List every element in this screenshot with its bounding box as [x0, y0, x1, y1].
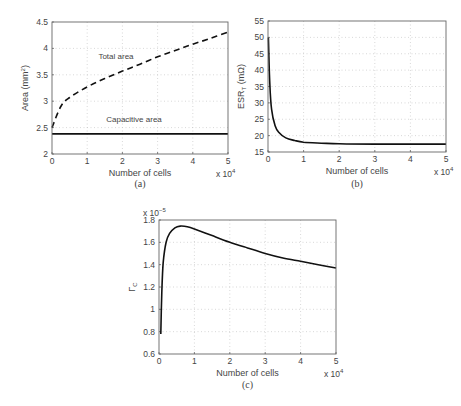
subfigure-caption: (c)	[242, 379, 253, 391]
x-axis-label: Number of cells	[326, 166, 389, 176]
y-tick-label: 15	[255, 147, 265, 157]
annotation-label: Total area	[98, 52, 134, 61]
y-tick-label: 1.4	[143, 260, 155, 270]
series-line	[268, 37, 446, 144]
x-tick-label: 3	[155, 156, 160, 166]
x-tick-label: 5	[334, 356, 339, 366]
y-scale-note: x 10−5	[143, 207, 167, 218]
y-tick-label: 40	[255, 65, 265, 75]
y-tick-label: 35	[255, 82, 265, 92]
chart-a: 01234522.533.544.5Number of cellsx 104Ar…	[20, 17, 236, 190]
subfigure-caption: (a)	[134, 178, 145, 190]
x-tick-label: 0	[157, 356, 162, 366]
y-tick-label: 1	[150, 304, 155, 314]
y-tick-label: 3	[43, 96, 48, 106]
x-tick-label: 0	[266, 154, 271, 164]
y-tick-label: 55	[255, 16, 265, 26]
y-tick-label: 30	[255, 98, 265, 108]
x-tick-label: 3	[263, 356, 268, 366]
series-line	[52, 32, 228, 128]
x-tick-label: 5	[444, 154, 449, 164]
y-tick-label: 1.2	[143, 282, 155, 292]
y-tick-label: 2	[43, 149, 48, 159]
y-tick-label: 4.5	[36, 17, 48, 27]
y-tick-label: 50	[255, 32, 265, 42]
y-tick-label: 3.5	[36, 70, 48, 80]
x-scale-note: x 104	[434, 166, 454, 177]
x-tick-label: 2	[227, 356, 232, 366]
x-tick-label: 1	[192, 356, 197, 366]
annotation-label: Capacitive area	[106, 115, 162, 124]
x-axis-label: Number of cells	[216, 368, 279, 378]
x-tick-label: 2	[120, 156, 125, 166]
x-tick-label: 1	[85, 156, 90, 166]
x-tick-label: 1	[301, 154, 306, 164]
x-tick-label: 0	[50, 156, 55, 166]
chart-b: 012345152025303540455055Number of cellsx…	[236, 16, 454, 190]
y-tick-label: 0.8	[143, 327, 155, 337]
y-tick-label: 4	[43, 43, 48, 53]
x-tick-label: 4	[190, 156, 195, 166]
y-tick-label: 2.5	[36, 123, 48, 133]
x-tick-label: 5	[226, 156, 231, 166]
y-tick-label: 1.6	[143, 237, 155, 247]
x-scale-note: x 104	[324, 368, 344, 379]
y-tick-label: 20	[255, 131, 265, 141]
x-tick-label: 2	[337, 154, 342, 164]
subfigure-caption: (b)	[351, 178, 363, 190]
y-axis-label: ESRT (mΩ)	[236, 64, 247, 109]
y-tick-label: 25	[255, 114, 265, 124]
y-tick-label: 0.6	[143, 349, 155, 359]
x-scale-note: x 104	[216, 168, 236, 179]
x-tick-label: 4	[408, 154, 413, 164]
x-tick-label: 4	[298, 356, 303, 366]
figure-canvas: 01234522.533.544.5Number of cellsx 104Ar…	[0, 0, 461, 406]
x-axis-label: Number of cells	[109, 168, 172, 178]
y-axis-label: Area (mm2)	[20, 65, 30, 111]
x-tick-label: 3	[372, 154, 377, 164]
y-axis-label: ΓC	[127, 282, 138, 292]
y-tick-label: 45	[255, 49, 265, 59]
chart-c: 0123450.60.811.21.41.61.8Number of cells…	[127, 207, 344, 391]
